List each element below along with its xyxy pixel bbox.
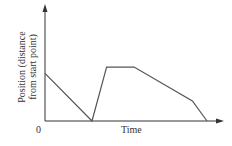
- x-axis-arrow-icon: [216, 119, 224, 124]
- y-axis-arrow-icon: [43, 4, 48, 12]
- y-axis-label-line2: from start point): [27, 31, 38, 102]
- position-line: [45, 67, 207, 121]
- x-axis-label: Time: [121, 125, 142, 135]
- origin-label: 0: [36, 125, 41, 135]
- y-axis-label-line1: Position (distance: [16, 31, 27, 102]
- axes: [43, 4, 225, 124]
- y-axis-label: Position (distance from start point): [16, 31, 38, 102]
